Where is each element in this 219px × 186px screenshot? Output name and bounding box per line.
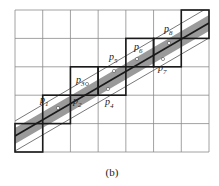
- point-label: p8: [163, 23, 173, 37]
- sample-dot: [135, 57, 138, 60]
- point-label: p3: [75, 74, 85, 88]
- sample-dot: [106, 87, 109, 90]
- center-line: [15, 23, 209, 136]
- sample-dot: [56, 106, 59, 109]
- point-label: p4: [104, 96, 114, 110]
- pixel-grid-line-band-diagram: p1p2p3p4p5p6p7p8 (b): [0, 0, 219, 186]
- point-label: p5: [108, 51, 118, 65]
- sample-dot: [161, 57, 164, 60]
- sample-dot: [167, 41, 170, 44]
- sample-dot: [112, 69, 115, 72]
- point-label: p6: [133, 41, 143, 55]
- figure-caption: (b): [106, 166, 119, 179]
- point-label: p7: [157, 62, 167, 76]
- sample-dot: [85, 82, 88, 85]
